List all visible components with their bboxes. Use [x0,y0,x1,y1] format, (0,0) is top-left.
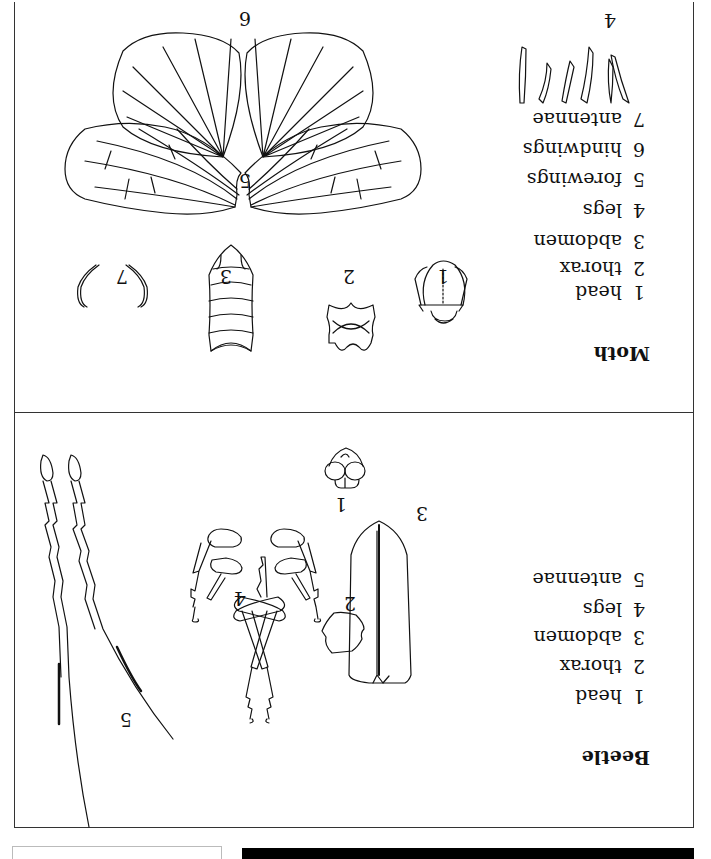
legend-number: 7 [629,108,645,132]
legend-label: head [575,685,622,709]
legend-label: thorax [560,655,622,679]
moth-hindwings-label: 6 [239,9,251,29]
moth-thorax-label: 2 [343,267,355,287]
legend-number: 6 [629,138,645,162]
legend-label: forewings [527,168,622,192]
legend-label: legs [583,598,622,622]
legend-label: abdomen [533,230,622,254]
legend-number: 1 [629,685,645,709]
legend-number: 4 [629,598,645,622]
blank-name-box [12,846,222,859]
moth-head-label: 1 [437,267,449,287]
legend-label: abdomen [533,626,622,650]
legend-label: hindwings [523,138,622,162]
moth-antennae-label: 7 [116,267,128,287]
legend-label: thorax [560,257,622,281]
beetle-antennae-label: 5 [120,710,132,730]
rotated-worksheet-page: Beetle 1 head 2 thorax 3 abdomen 4 legs … [0,0,711,859]
section-divider [14,412,694,413]
black-header-bar [242,848,694,859]
moth-legs-label: 4 [604,11,616,31]
beetle-abdomen-label: 3 [416,504,428,524]
legend-label: head [575,281,622,305]
legend-number: 5 [629,568,645,592]
moth-title: Moth [594,343,650,365]
legend-label: legs [583,199,622,223]
legend-number: 2 [629,655,645,679]
moth-forewings-label: 5 [239,171,251,191]
legend-number: 1 [629,281,645,305]
legend-number: 2 [629,257,645,281]
moth-abdomen-label: 3 [220,267,232,287]
beetle-title: Beetle [582,747,650,769]
beetle-head-label: 1 [335,495,347,515]
legend-number: 3 [629,230,645,254]
legend-number: 5 [629,168,645,192]
legend-number: 3 [629,626,645,650]
legend-number: 4 [629,199,645,223]
legend-label: antennae [533,568,623,592]
beetle-thorax-label: 2 [344,594,356,614]
legend-label: antennae [533,108,623,132]
beetle-legs-label: 4 [234,589,246,609]
